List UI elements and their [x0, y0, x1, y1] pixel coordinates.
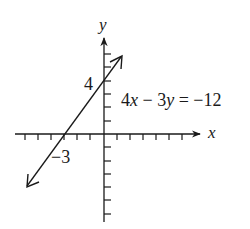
equation-coef-y: 3 — [157, 90, 166, 110]
line-arrow-lower-icon — [27, 174, 39, 187]
equation-var-x: x — [130, 90, 138, 110]
equation-rhs: = −12 — [174, 90, 221, 110]
x-intercept-label: −3 — [51, 148, 70, 166]
equation-label: 4x − 3y = −12 — [121, 91, 221, 109]
y-axis-label: y — [99, 16, 107, 33]
equation-minus: − — [138, 90, 157, 110]
equation-var-y: y — [166, 90, 174, 110]
coordinate-plane — [0, 0, 250, 229]
x-axis-label: x — [208, 124, 216, 141]
y-intercept-label: 4 — [84, 75, 93, 93]
equation-coef-x: 4 — [121, 90, 130, 110]
